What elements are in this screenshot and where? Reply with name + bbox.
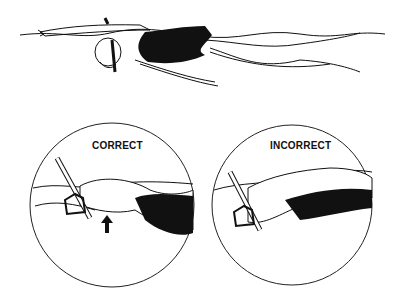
illustration	[0, 0, 398, 298]
arrow-up-icon	[101, 215, 113, 233]
correct-label: CORRECT	[92, 140, 143, 151]
incorrect-label: INCORRECT	[270, 140, 331, 151]
swimsuit	[138, 26, 212, 63]
